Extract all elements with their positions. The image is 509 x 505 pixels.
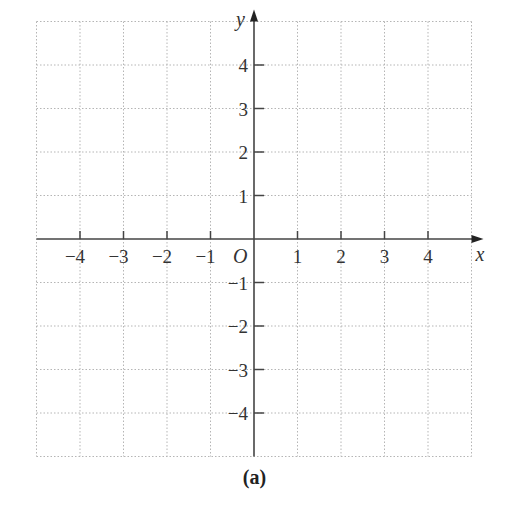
x-tick-label: −2 — [152, 246, 172, 267]
x-tick-label: 3 — [380, 246, 390, 267]
x-tick-label: 1 — [293, 246, 303, 267]
x-tick-label: 4 — [423, 246, 433, 267]
coordinate-plane-figure: −4−3−2−11234−4−3−2−11234 x y O (a) — [0, 0, 509, 505]
x-tick-label: −3 — [108, 246, 128, 267]
y-tick-label: −4 — [228, 403, 249, 424]
y-tick-label: −2 — [228, 316, 248, 337]
y-tick-label: 2 — [239, 142, 249, 163]
figure-caption: (a) — [0, 466, 509, 489]
x-axis-arrow-icon — [472, 235, 484, 243]
x-tick-label: 2 — [336, 246, 346, 267]
y-tick-label: 3 — [239, 99, 249, 120]
origin-label: O — [233, 245, 247, 267]
y-tick-label: −3 — [228, 360, 248, 381]
y-tick-label: 1 — [239, 186, 249, 207]
x-tick-label: −1 — [195, 246, 215, 267]
x-tick-label: −4 — [65, 246, 86, 267]
x-axis-label: x — [475, 243, 485, 265]
axes — [37, 10, 484, 457]
y-tick-label: −1 — [228, 273, 248, 294]
y-axis-label: y — [234, 8, 245, 31]
coordinate-plane: −4−3−2−11234−4−3−2−11234 x y O — [0, 0, 509, 505]
y-axis-arrow-icon — [250, 10, 258, 22]
y-tick-label: 4 — [239, 55, 249, 76]
